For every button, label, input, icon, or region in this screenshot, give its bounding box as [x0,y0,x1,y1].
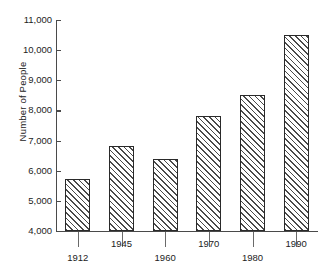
y-axis-tick-label: 8,000 [8,105,52,115]
x-axis-tick-mark [78,232,79,247]
x-axis-tick-label: 1945 [92,239,152,249]
y-axis-tick-label: 9,000 [8,75,52,85]
x-axis-tick-label: 1912 [48,253,108,263]
y-axis-tick-mark [56,201,61,202]
x-axis-tick-label: 1980 [223,253,283,263]
x-axis-tick-label: 1960 [135,253,195,263]
bar [109,146,134,231]
bar [196,116,221,231]
y-axis-tick-label: 7,000 [8,136,52,146]
y-axis-tick-labels: 4,0005,0006,0007,0008,0009,00010,00011,0… [8,0,52,273]
y-axis-tick-label: 4,000 [8,226,52,236]
y-axis-tick-label: 6,000 [8,166,52,176]
x-axis-tick-mark [165,232,166,247]
bar [284,35,309,231]
y-axis-tick-mark [56,141,61,142]
x-axis-tick-label: 1990 [266,239,326,249]
y-axis-tick-mark [56,171,61,172]
bar-chart: Number of People 4,0005,0006,0007,0008,0… [0,0,326,273]
y-axis-tick-label: 10,000 [8,45,52,55]
y-axis-tick-mark [56,50,61,51]
y-axis-tick-label: 5,000 [8,196,52,206]
y-axis-tick-mark [56,80,61,81]
y-axis-tick-label: 11,000 [8,15,52,25]
x-axis-line [56,231,318,232]
y-axis-tick-mark [56,20,61,21]
bar [65,179,90,231]
x-axis-tick-mark [253,232,254,247]
bar [240,95,265,231]
y-axis-tick-mark [56,110,61,111]
x-axis-tick-label: 1970 [179,239,239,249]
bar [153,159,178,231]
